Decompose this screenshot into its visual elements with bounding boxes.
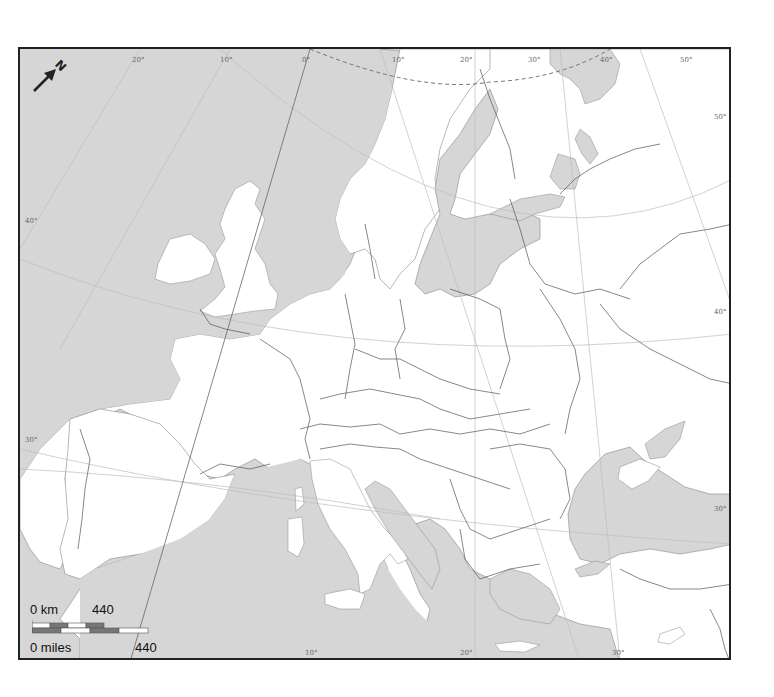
graticule-label-top-0: 20° [132, 56, 144, 64]
graticule-label-top-1: 10° [220, 56, 232, 64]
graticule-label-left-1: 30° [25, 436, 37, 444]
graticule-label-right-1: 40° [714, 308, 726, 316]
map-frame: 20° 10° 0° 10° 20° 30° 40° 50° 40° 30° 5… [18, 47, 731, 660]
graticule-label-right-0: 50° [714, 113, 726, 121]
graticule-label-top-4: 20° [460, 56, 472, 64]
graticule-label-top-2: 0° [302, 56, 310, 64]
graticule-label-bottom-0: 10° [305, 649, 317, 657]
graticule-label-bottom-2: 30° [612, 649, 624, 657]
scale-miles-start: 0 miles [30, 640, 71, 655]
graticule-label-bottom-1: 20° [460, 649, 472, 657]
north-arrow: N [30, 53, 74, 97]
graticule-label-top-5: 30° [528, 56, 540, 64]
scale-km-end: 440 [92, 602, 114, 617]
scale-miles-end: 440 [135, 640, 157, 655]
graticule-label-top-7: 50° [680, 56, 692, 64]
europe-map: 20° 10° 0° 10° 20° 30° 40° 50° 40° 30° 5… [20, 49, 731, 660]
scale-bar-graphic [32, 620, 152, 640]
scale-km-start: 0 km [30, 602, 58, 617]
graticule-label-top-3: 10° [392, 56, 404, 64]
graticule-label-left-0: 40° [25, 217, 37, 225]
graticule-label-top-6: 40° [600, 56, 612, 64]
graticule-label-right-2: 30° [714, 505, 726, 513]
scale-bar: 0 km 440 0 miles 440 [30, 602, 170, 660]
north-arrow-icon: N [30, 53, 74, 97]
